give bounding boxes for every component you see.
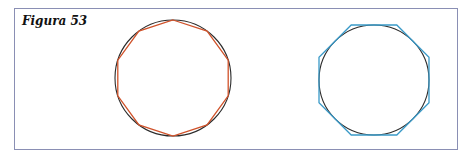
geometry-diagram — [0, 0, 471, 160]
inscribed-decagon — [118, 20, 228, 136]
left-circle — [115, 20, 231, 136]
circumscribed-octagon — [319, 25, 429, 135]
